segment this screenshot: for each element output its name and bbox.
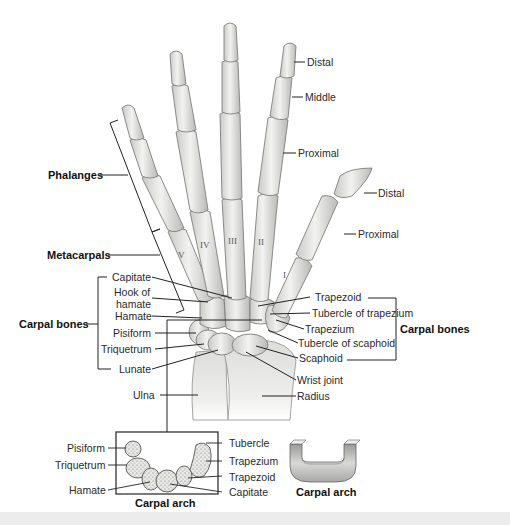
inset-trapezoid [176, 466, 192, 486]
tubercle-of-scaphoid-label: Tubercle of scaphoid [298, 337, 395, 349]
metacarpal-iii-numeral: III [228, 236, 237, 246]
wrist-joint-label: Wrist joint [297, 374, 343, 386]
triquetrum-label: Triquetrum [101, 343, 151, 355]
metacarpal-iv-numeral: IV [200, 240, 210, 250]
metacarpal-i-numeral: I [283, 270, 286, 280]
carpal-arch-inset [108, 432, 222, 494]
hand-anatomy-figure: Phalanges Metacarpals Carpal bones Carpa… [0, 0, 510, 525]
trapezium-label: Trapezium [305, 323, 354, 335]
trapezoid-label: Trapezoid [315, 291, 361, 303]
index-middle-phalanx [270, 76, 292, 120]
scaphoid-bone [232, 334, 268, 356]
inset-pisiform [125, 441, 141, 457]
metacarpal-ii-numeral: II [258, 237, 264, 247]
radius-label: Radius [297, 390, 330, 402]
little-middle-phalanx [130, 138, 158, 178]
hamate-label: Hamate [115, 310, 152, 322]
ring-middle-phalanx [172, 84, 196, 132]
inset-caption: Carpal arch [135, 497, 196, 509]
inset-pisiform-label: Pisiform [67, 442, 105, 454]
scaphoid-label: Scaphoid [299, 352, 343, 364]
middle-distal-phalanx [224, 23, 238, 62]
finger-middle-label: Middle [305, 91, 336, 103]
finger-distal-label: Distal [307, 56, 333, 68]
little-distal-phalanx [122, 105, 144, 140]
hook-of-hamate-label-line2: hamate [116, 298, 151, 310]
ring-distal-phalanx [170, 51, 186, 86]
middle-proximal-phalanx [220, 111, 242, 200]
inset-tubercle-label: Tubercle [229, 437, 269, 449]
inset-capitate [156, 470, 178, 492]
carpal-bones-left-label: Carpal bones [19, 318, 89, 330]
index-distal-phalanx [280, 43, 296, 78]
inset-triquetrum-label: Triquetrum [55, 459, 105, 471]
phalanges-group-label: Phalanges [48, 169, 103, 181]
finger-proximal-label: Proximal [298, 147, 339, 159]
inset-trapezoid-label: Trapezoid [229, 471, 275, 483]
phalanges [122, 23, 372, 260]
middle-middle-phalanx [222, 60, 240, 114]
thumb-proximal-phalanx [296, 196, 338, 261]
thumb-distal-label: Distal [378, 187, 404, 199]
inset-capitate-label: Capitate [229, 486, 268, 498]
inset-hamate-label: Hamate [69, 484, 106, 496]
tubercle-of-trapezium-label: Tubercle of trapezium [312, 307, 413, 319]
ring-proximal-phalanx [176, 129, 208, 213]
schematic-arch-caption: Carpal arch [296, 486, 357, 498]
thumb-proximal-label: Proximal [358, 228, 399, 240]
capitate-label: Capitate [112, 271, 151, 283]
ulna-bone [192, 350, 228, 420]
metacarpals-group-label: Metacarpals [47, 249, 111, 261]
lunate-label: Lunate [119, 363, 151, 375]
pisiform-label: Pisiform [113, 327, 151, 339]
inset-trapezium-label: Trapezium [229, 455, 278, 467]
metacarpals [168, 193, 312, 318]
bottom-strip [0, 512, 510, 525]
metacarpal-ii [250, 193, 278, 302]
metacarpal-i [272, 258, 312, 318]
carpal-arch-schematic [290, 440, 360, 482]
ulna-label: Ulna [133, 389, 155, 401]
metacarpal-v-numeral: V [178, 250, 185, 260]
index-proximal-phalanx [258, 116, 288, 195]
carpal-bones-right-label: Carpal bones [400, 323, 470, 335]
metacarpal-iii [222, 197, 246, 300]
hook-of-hamate-label-line1: Hook of [114, 286, 150, 298]
